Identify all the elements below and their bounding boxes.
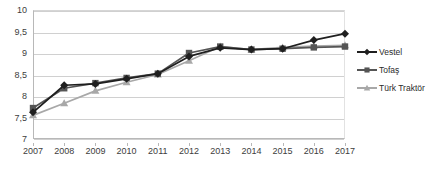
legend-swatch — [357, 46, 377, 57]
x-tick-label: 2011 — [148, 146, 167, 156]
x-tick-label: 2013 — [210, 146, 230, 156]
legend-swatch — [357, 82, 377, 93]
legend-item-tofaş[interactable]: Tofaş — [357, 62, 439, 77]
x-tick-label: 2016 — [304, 146, 324, 156]
x-axis: 2007200820092010201120122013201420152016… — [33, 143, 345, 159]
x-tick-label: 2014 — [241, 146, 261, 156]
y-tick-label: 10 — [17, 6, 27, 15]
data-point-marker — [341, 30, 349, 38]
series-line — [33, 34, 345, 113]
y-tick-label: 7 — [22, 135, 27, 144]
x-tick-label: 2009 — [85, 146, 105, 156]
legend: VestelTofaşTürk Traktör — [357, 44, 439, 98]
legend-label: Tofaş — [379, 65, 399, 75]
y-tick-label: 8 — [22, 92, 27, 101]
data-point-marker — [364, 67, 369, 72]
line-chart: 77,588,599,510 2007200820092010201120122… — [0, 0, 439, 181]
data-point-marker — [364, 49, 370, 55]
data-point-marker — [310, 36, 318, 44]
legend-label: Vestel — [379, 47, 402, 57]
legend-item-vestel[interactable]: Vestel — [357, 44, 439, 59]
x-tick-label: 2012 — [179, 146, 199, 156]
y-tick-label: 9,5 — [14, 27, 27, 36]
data-point-marker — [311, 44, 317, 50]
legend-label: Türk Traktör — [379, 83, 425, 93]
x-tick-label: 2017 — [335, 146, 355, 156]
legend-swatch — [357, 64, 377, 75]
y-tick-label: 7,5 — [14, 113, 27, 122]
gridline — [34, 139, 344, 140]
x-tick-label: 2010 — [117, 146, 137, 156]
y-axis: 77,588,599,510 — [0, 10, 31, 139]
series-vestel — [29, 30, 349, 117]
data-point-marker — [342, 43, 348, 49]
legend-marker-diamond — [363, 48, 371, 56]
x-tick-label: 2015 — [273, 146, 293, 156]
legend-marker-square — [363, 66, 371, 74]
legend-marker-triangle — [363, 84, 371, 92]
data-point-marker — [364, 85, 370, 91]
x-tick-label: 2007 — [23, 146, 43, 156]
y-tick-label: 9 — [22, 49, 27, 58]
legend-item-türk-traktör[interactable]: Türk Traktör — [357, 80, 439, 95]
x-tick-label: 2008 — [54, 146, 74, 156]
y-tick-label: 8,5 — [14, 70, 27, 79]
series-layer — [33, 10, 345, 139]
